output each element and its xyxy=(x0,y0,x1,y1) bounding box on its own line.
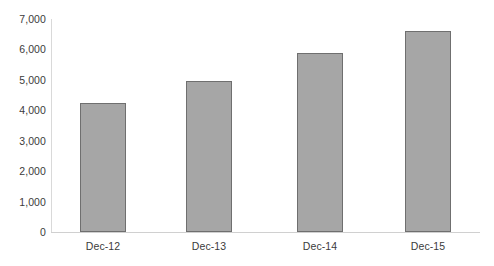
y-axis-tick-label: 5,000 xyxy=(2,75,46,86)
plot-area xyxy=(52,19,480,232)
x-axis-tick-label-dec-13: Dec-13 xyxy=(192,240,226,253)
y-axis-tick-label: 6,000 xyxy=(2,44,46,55)
y-axis-tick-label: 4,000 xyxy=(2,105,46,116)
bar-chart: 7,000 6,000 5,000 4,000 3,000 2,000 1,00… xyxy=(0,0,494,266)
bar-dec-12 xyxy=(80,103,126,232)
bar-dec-14 xyxy=(297,53,343,232)
y-axis-tick-label: 2,000 xyxy=(2,166,46,177)
x-axis-tick-label-dec-12: Dec-12 xyxy=(86,240,120,253)
y-axis-tick-label: 7,000 xyxy=(2,14,46,25)
x-axis-tick-label-dec-14: Dec-14 xyxy=(303,240,337,253)
x-axis-line xyxy=(51,232,480,233)
bar-dec-15 xyxy=(405,31,451,232)
y-axis-tick-label: 0 xyxy=(2,227,46,238)
bar-dec-13 xyxy=(186,81,232,232)
y-axis-tick-label: 3,000 xyxy=(2,135,46,146)
y-axis-tick-label: 1,000 xyxy=(2,196,46,207)
x-axis-tick-label-dec-15: Dec-15 xyxy=(411,240,445,253)
